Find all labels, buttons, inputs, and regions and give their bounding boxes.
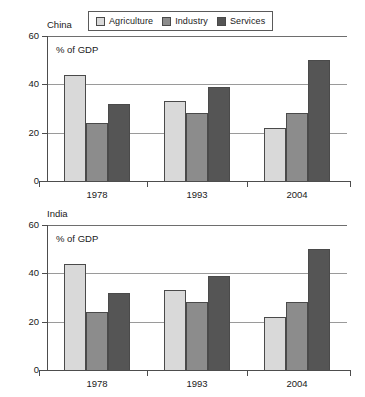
bar [308,60,330,181]
legend-entry: Services [217,17,265,26]
legend-label: Agriculture [109,17,153,26]
legend-swatch-icon [217,17,226,26]
legend-label: Services [230,17,265,26]
bar [264,128,286,181]
panel-title-china: China [47,20,72,30]
chart-panel-india: India % of GDP 0204060197819932004 [0,197,365,397]
y-axis-line [47,36,48,182]
panel-title-india: India [47,209,68,219]
plot-area-china: 0204060197819932004 [47,36,347,188]
legend-swatch-icon [96,17,105,26]
x-tick-label: 1978 [86,379,107,389]
bar [286,113,308,181]
gridline [47,36,347,37]
bar [164,101,186,181]
x-axis-line [39,181,351,182]
bar [86,312,108,370]
y-tick-label: 20 [28,128,39,138]
legend-entry: Agriculture [96,17,153,26]
y-tick-label: 60 [28,220,39,230]
x-tick-mark [247,371,248,376]
bar [108,293,130,370]
chart-legend: AgricultureIndustryServices [88,11,273,31]
x-tick-mark [147,182,148,187]
bar [186,302,208,370]
bar [208,87,230,181]
bar [286,302,308,370]
legend-swatch-icon [162,17,171,26]
x-tick-mark [147,371,148,376]
x-tick-mark [39,371,40,376]
plot-area-india: 0204060197819932004 [47,225,347,377]
x-tick-label: 1993 [186,379,207,389]
bar [64,264,86,370]
chart-figure: AgricultureIndustryServices China % of G… [0,0,365,397]
bar [264,317,286,370]
y-tick-label: 60 [28,31,39,41]
gridline [47,273,347,274]
legend-label: Industry [175,17,208,26]
x-tick-mark [350,371,351,376]
x-axis-line [39,370,351,371]
x-tick-mark [350,182,351,187]
bar [164,290,186,370]
bar [108,104,130,181]
y-tick-label: 40 [28,268,39,278]
bar [308,249,330,370]
y-axis-line [47,225,48,371]
bar [64,75,86,181]
gridline [47,225,347,226]
y-tick-label: 40 [28,79,39,89]
gridline [47,84,347,85]
bar [186,113,208,181]
bar [86,123,108,181]
y-tick-label: 20 [28,317,39,327]
x-tick-mark [247,182,248,187]
x-tick-label: 2004 [286,379,307,389]
bar [208,276,230,370]
x-tick-mark [39,182,40,187]
legend-entry: Industry [162,17,208,26]
